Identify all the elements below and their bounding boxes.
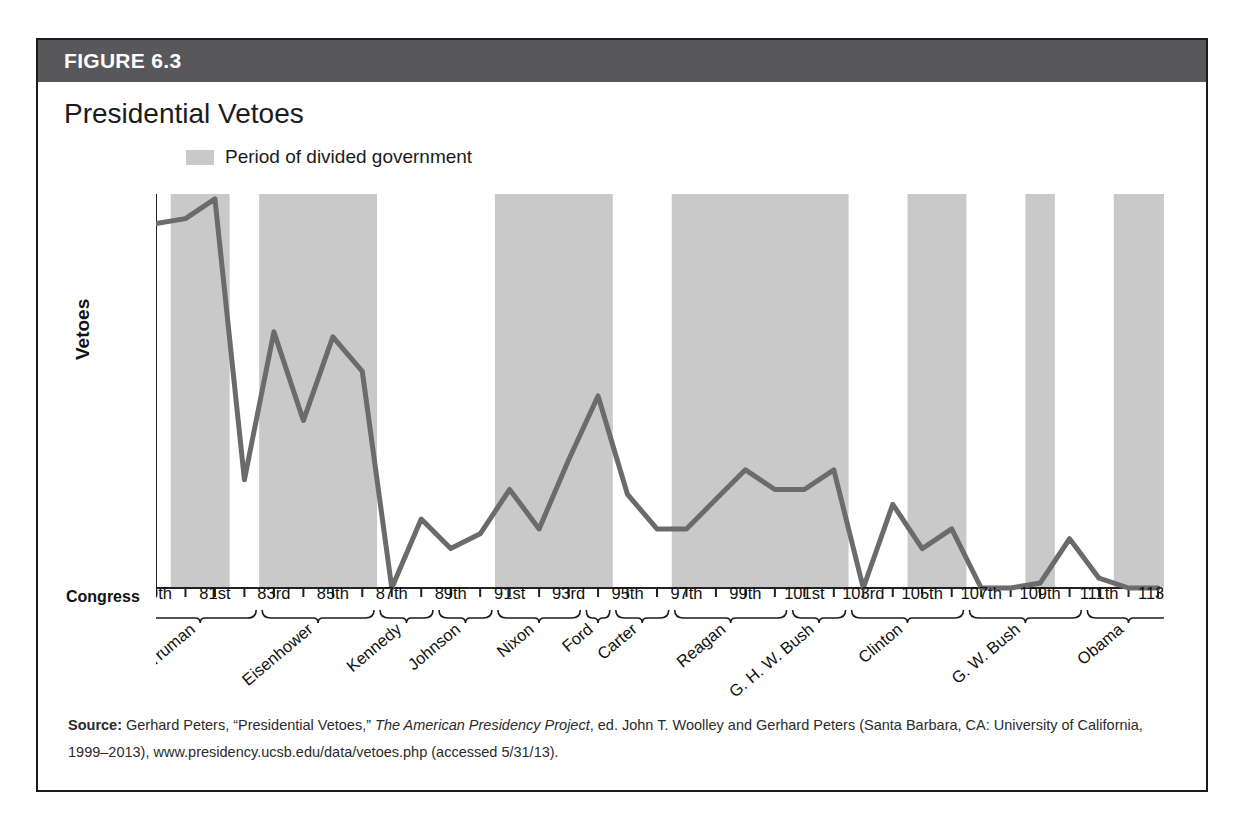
president-brace xyxy=(793,610,846,623)
president-name-label: Kennedy xyxy=(343,619,405,675)
congress-tick-label: 101st xyxy=(784,584,825,602)
chart-legend: Period of divided government xyxy=(186,146,472,168)
divided-government-band xyxy=(1114,194,1164,588)
president-brace xyxy=(969,610,1081,623)
figure-frame: FIGURE 6.3 Presidential Vetoes Period of… xyxy=(36,38,1208,792)
president-brace xyxy=(616,610,669,623)
president-brace xyxy=(852,610,964,623)
president-name-label: Reagan xyxy=(673,620,729,671)
congress-tick-label: 111th xyxy=(1080,584,1119,602)
source-prefix: Source: xyxy=(68,717,122,733)
congress-tick-label: 81st xyxy=(199,584,231,602)
congress-tick-labels: 79th81st83rd85th87th89th91st93rd95th97th… xyxy=(156,580,1164,608)
source-title-italic: The American Presidency Project xyxy=(375,717,590,733)
president-brace xyxy=(156,610,256,623)
president-name-label: Obama xyxy=(1073,619,1127,668)
president-brace xyxy=(586,610,609,623)
figure-header-band: FIGURE 6.3 xyxy=(38,40,1206,82)
divided-government-band xyxy=(495,194,613,588)
chart-title: Presidential Vetoes xyxy=(64,98,304,130)
president-brace xyxy=(675,610,787,623)
congress-tick-label: 85th xyxy=(317,584,349,602)
president-name-label: Eisenhower xyxy=(238,619,316,689)
president-name-label: Clinton xyxy=(855,620,906,667)
congress-tick-label: 103rd xyxy=(842,584,884,602)
congress-tick-label: 93rd xyxy=(552,584,585,602)
source-note: Source: Gerhard Peters, “Presidential Ve… xyxy=(68,712,1178,766)
president-brace xyxy=(439,610,492,623)
president-name-label: Johnson xyxy=(404,620,463,674)
plot-area: 020406080 xyxy=(156,188,1164,616)
congress-tick-label: 99th xyxy=(729,584,761,602)
president-name-label: Carter xyxy=(594,619,641,663)
divided-government-swatch-icon xyxy=(186,150,214,165)
divided-government-band xyxy=(1025,194,1054,588)
president-name-label: G. H. W. Bush xyxy=(725,620,817,701)
congress-tick-label: 89th xyxy=(435,584,467,602)
divided-government-band xyxy=(908,194,967,588)
congress-tick-label: 83rd xyxy=(257,584,290,602)
president-brace xyxy=(498,610,580,623)
divided-government-band xyxy=(672,194,849,588)
y-axis-title: Vetoes xyxy=(72,299,94,360)
divided-government-band xyxy=(259,194,377,588)
president-name-label: Ford xyxy=(558,620,596,656)
congress-tick-label: 105th xyxy=(902,584,943,602)
congress-tick-label: 109th xyxy=(1019,584,1060,602)
source-text-part1: Gerhard Peters, “Presidential Vetoes,” xyxy=(122,717,375,733)
president-name-label: G. W. Bush xyxy=(948,620,1023,687)
figure-page: FIGURE 6.3 Presidential Vetoes Period of… xyxy=(0,0,1252,817)
congress-tick-label: 97th xyxy=(670,584,702,602)
president-brace xyxy=(380,610,433,623)
x-axis-row-label: Congress xyxy=(66,588,140,606)
congress-tick-label: 87th xyxy=(376,584,408,602)
president-name-label: Nixon xyxy=(493,620,537,661)
congress-tick-label: 95th xyxy=(611,584,643,602)
president-name-label: Truman xyxy=(156,620,198,670)
figure-number-label: FIGURE 6.3 xyxy=(64,49,181,73)
line-chart-svg: 020406080 xyxy=(156,188,1164,616)
president-braces-and-names: TrumanEisenhowerKennedyJohnsonNixonFordC… xyxy=(156,606,1164,710)
congress-tick-label: 113th xyxy=(1138,584,1164,602)
president-brace xyxy=(262,610,374,623)
president-brace xyxy=(1087,610,1164,623)
congress-tick-label: 91st xyxy=(494,584,526,602)
congress-tick-label: 79th xyxy=(156,584,172,602)
congress-tick-label: 107th xyxy=(961,584,1002,602)
legend-item-label: Period of divided government xyxy=(225,146,472,168)
